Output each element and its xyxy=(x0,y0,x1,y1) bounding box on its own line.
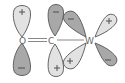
o-orbital-up xyxy=(13,6,30,38)
w-orbital-down-right xyxy=(95,43,117,66)
atom-w-label: W xyxy=(85,36,94,46)
bonds xyxy=(28,39,84,42)
o-orbital-down xyxy=(13,43,30,76)
w-orbital-down-left xyxy=(63,43,86,69)
c-orbital-down xyxy=(48,44,63,77)
orbital-diagram: O C W xyxy=(0,0,125,83)
atom-c-label: C xyxy=(48,36,54,46)
c-orbital-up xyxy=(48,5,63,37)
atom-o-label: O xyxy=(19,36,26,46)
w-orbital-up-right xyxy=(95,14,117,37)
w-orbital-up-left xyxy=(63,11,86,37)
